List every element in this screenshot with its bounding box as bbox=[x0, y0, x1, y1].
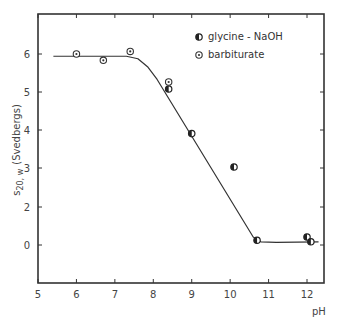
y-tick-label: 5 bbox=[24, 87, 30, 98]
barbiturate-point bbox=[100, 57, 106, 63]
legend: glycine - NaOH barbiturate bbox=[196, 31, 283, 60]
x-axis-title: pH bbox=[312, 306, 326, 317]
x-tick-label: 7 bbox=[112, 289, 118, 300]
legend-item-glycine: glycine - NaOH bbox=[196, 31, 283, 42]
x-tick-label: 8 bbox=[150, 289, 156, 300]
data-points bbox=[73, 48, 314, 245]
x-tick-label: 9 bbox=[189, 289, 195, 300]
sedimentation-chart: 56789101112023456 glycine - NaOH barbitu… bbox=[0, 0, 338, 326]
glycine-point bbox=[254, 237, 260, 243]
glycine-point bbox=[189, 130, 195, 136]
dotted-circle-icon bbox=[196, 52, 202, 58]
y-axis-title: s20, w(Svedbergs) bbox=[11, 104, 25, 196]
legend-label-barbiturate: barbiturate bbox=[208, 49, 264, 60]
glycine-point bbox=[231, 164, 237, 170]
barbiturate-point bbox=[127, 48, 133, 54]
barbiturate-point bbox=[165, 79, 171, 85]
y-tick-label: 4 bbox=[24, 125, 30, 136]
legend-item-barbiturate: barbiturate bbox=[196, 49, 264, 60]
glycine-point bbox=[165, 86, 171, 92]
x-tick-label: 5 bbox=[35, 289, 41, 300]
x-tick-label: 11 bbox=[262, 289, 275, 300]
svg-text:s20, w(Svedbergs): s20, w(Svedbergs) bbox=[11, 104, 25, 196]
x-tick-label: 6 bbox=[73, 289, 79, 300]
x-tick-label: 10 bbox=[224, 289, 237, 300]
y-tick-label: 6 bbox=[24, 49, 30, 60]
legend-label-glycine: glycine - NaOH bbox=[208, 31, 283, 42]
y-tick-label: 0 bbox=[24, 240, 30, 251]
glycine-point bbox=[308, 239, 314, 245]
y-tick-label: 2 bbox=[24, 202, 30, 213]
fit-curve bbox=[53, 56, 318, 242]
barbiturate-point bbox=[73, 51, 79, 57]
axes: 56789101112023456 bbox=[24, 14, 324, 300]
half-filled-circle-icon bbox=[196, 34, 202, 40]
x-tick-label: 12 bbox=[301, 289, 314, 300]
